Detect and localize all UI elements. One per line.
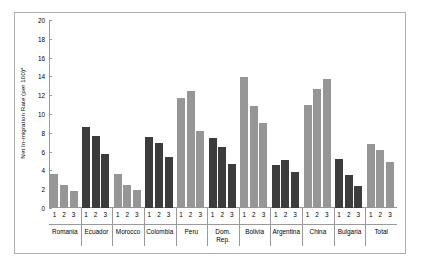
bar (272, 165, 280, 208)
y-axis-tick-label: 8 (41, 129, 45, 136)
x-axis-category-label: Dom.Rep. (207, 228, 239, 243)
bar (218, 147, 226, 208)
x-axis-subcategory-label: 3 (163, 211, 175, 218)
bar (50, 174, 58, 208)
bar (313, 89, 321, 208)
x-axis-group-separator (81, 208, 82, 225)
x-axis-group-separator (334, 208, 335, 225)
x-axis-group-separator (239, 208, 240, 225)
x-axis-subcategory-label: 3 (226, 211, 238, 218)
x-axis-subcategory-label: 3 (289, 211, 301, 218)
x-axis-category-label: Bulgaria (334, 228, 366, 236)
x-axis-category-label: Peru (176, 228, 208, 236)
x-axis-group-separator (270, 208, 271, 225)
bar (240, 77, 248, 208)
x-axis-category-label: Morocco (112, 228, 144, 236)
bar (177, 98, 185, 208)
bar (323, 79, 331, 208)
x-axis-subcategory-label: 3 (194, 211, 206, 218)
bar (367, 144, 375, 208)
y-axis-tick-label: 0 (41, 205, 45, 212)
bar (60, 185, 68, 208)
x-axis-category-label: Ecuador (81, 228, 113, 236)
bar (209, 138, 217, 208)
bar (304, 105, 312, 208)
bar (165, 157, 173, 208)
y-axis-tick-label: 18 (38, 35, 45, 42)
x-axis-category-label: China (302, 228, 334, 236)
x-axis-group-separator (144, 208, 145, 225)
y-axis-tick-label: 20 (38, 17, 45, 24)
x-axis-group-separator (112, 208, 113, 225)
x-axis-subcategory-label: 3 (131, 211, 143, 218)
bar (345, 175, 353, 208)
bar (82, 127, 90, 208)
bar (335, 159, 343, 208)
bar (196, 131, 204, 208)
bar (101, 154, 109, 208)
x-axis-subcategory-band: 123123123123123123123123123123123 (49, 208, 397, 225)
x-axis-category-label: Colombia (144, 228, 176, 236)
x-axis-category-label: Bolivia (239, 228, 271, 236)
x-axis-subcategory-label: 3 (257, 211, 269, 218)
figure-canvas: Net In-migration Rate (per 100)* 0246810… (0, 0, 421, 265)
x-axis-subcategory-label: 3 (68, 211, 80, 218)
bar (376, 150, 384, 208)
bar (259, 123, 267, 208)
x-axis-group-separator (176, 208, 177, 225)
bar (281, 160, 289, 208)
bar (291, 172, 299, 208)
bar (145, 137, 153, 208)
bar (386, 162, 394, 208)
bar (354, 186, 362, 208)
x-axis-subcategory-label: 3 (321, 211, 333, 218)
y-axis-tick-label: 14 (38, 73, 45, 80)
y-axis-tick-label: 12 (38, 92, 45, 99)
x-axis-group-separator (207, 208, 208, 225)
y-axis-tick-label: 6 (41, 148, 45, 155)
x-axis-category-band: RomaniaEcuadorMoroccoColombiaPeruDom.Rep… (49, 225, 397, 249)
x-axis-group-separator (365, 208, 366, 225)
bar (228, 164, 236, 208)
bar (92, 136, 100, 208)
y-axis-tick-label: 16 (38, 54, 45, 61)
y-axis-tick-label: 2 (41, 186, 45, 193)
x-axis-category-label: Romania (49, 228, 81, 236)
bar (123, 185, 131, 208)
x-axis-category-label: Argentina (270, 228, 302, 236)
chart-area: Net In-migration Rate (per 100)* 0246810… (23, 18, 399, 248)
x-axis-group-separator (302, 208, 303, 225)
bar (133, 190, 141, 208)
x-axis-subcategory-label: 3 (352, 211, 364, 218)
y-axis-tick-label: 10 (38, 111, 45, 118)
bar (114, 174, 122, 208)
x-axis-subcategory-label: 3 (384, 211, 396, 218)
bars-layer (49, 20, 397, 208)
y-axis-ticks: 02468101214161820 (23, 18, 49, 206)
x-axis-category-label: Total (365, 228, 397, 236)
bar (155, 143, 163, 208)
x-axis-subcategory-label: 3 (99, 211, 111, 218)
bar (250, 106, 258, 208)
bar (70, 191, 78, 208)
bar (187, 91, 195, 208)
y-axis-tick-label: 4 (41, 167, 45, 174)
